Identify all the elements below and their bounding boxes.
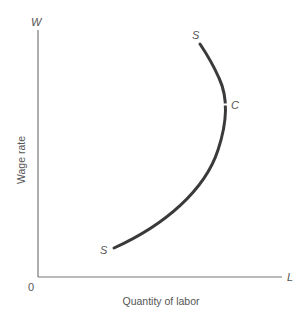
origin-label: 0	[28, 281, 34, 293]
y-axis-symbol: W	[31, 16, 43, 28]
y-axis-label: Wage rate	[15, 136, 27, 184]
point-c-label: C	[231, 99, 239, 111]
curve-label-bottom: S	[100, 244, 108, 256]
supply-curve	[114, 44, 225, 248]
curve-label-top: S	[192, 29, 200, 41]
labor-supply-chart: W L 0 Quantity of labor Wage rate S S C	[0, 0, 307, 317]
x-axis-symbol: L	[287, 271, 293, 283]
point-c-marker	[222, 104, 228, 106]
x-axis-label: Quantity of labor	[122, 295, 200, 307]
